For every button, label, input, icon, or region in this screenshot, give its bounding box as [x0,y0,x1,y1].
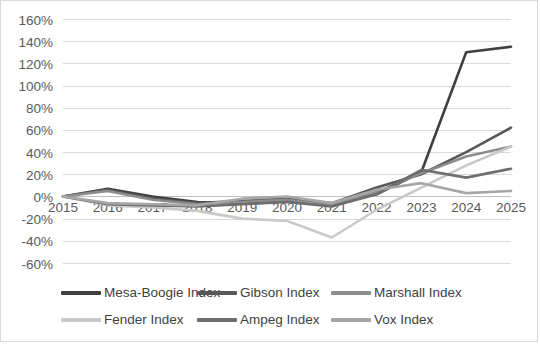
legend-label: Fender Index [104,312,184,327]
y-axis-tick-label: 160% [18,13,53,28]
legend-item[interactable]: Ampeg Index [197,306,320,333]
legend-swatch [197,318,237,322]
legend-swatch [197,291,237,295]
x-axis-tick-label: 2015 [48,200,78,215]
y-axis-tick-label: 60% [26,123,53,138]
y-axis-tick-label: 20% [26,168,53,183]
x-axis-tick-label: 2025 [496,200,526,215]
legend-swatch [331,291,371,295]
y-axis-tick-label: 40% [26,146,53,161]
y-axis-tick-label: 120% [18,57,53,72]
line-chart-svg: 160%140%120%100%80%60%40%20%0%-20%-40%-6… [1,1,539,273]
legend-item[interactable]: Marshall Index [331,279,462,306]
legend-label: Ampeg Index [240,312,320,327]
x-axis-tick-label: 2023 [406,200,436,215]
legend-item[interactable]: Fender Index [61,306,184,333]
x-axis-tick-label: 2024 [451,200,482,215]
legend-label: Marshall Index [374,285,462,300]
y-axis-tick-labels: 160%140%120%100%80%60%40%20%0%-20%-40%-6… [18,13,53,272]
y-axis-tick-label: -60% [21,257,53,272]
legend-label: Gibson Index [240,285,320,300]
legend-swatch [331,318,371,322]
y-axis-tick-label: 140% [18,35,53,50]
legend-label: Vox Index [374,312,433,327]
legend-row: Mesa-Boogie IndexGibson IndexMarshall In… [1,279,539,306]
chart-container: 160%140%120%100%80%60%40%20%0%-20%-40%-6… [0,0,538,342]
legend-item[interactable]: Gibson Index [197,279,320,306]
y-axis-tick-label: 80% [26,101,53,116]
gridlines [63,20,511,264]
legend-item[interactable]: Vox Index [331,306,433,333]
legend-swatch [61,318,101,322]
y-axis-tick-label: -40% [21,234,53,249]
legend-swatch [61,291,101,295]
x-axis-tick-label: 2022 [362,200,392,215]
plot-area: 160%140%120%100%80%60%40%20%0%-20%-40%-6… [1,1,539,273]
chart-legend: Mesa-Boogie IndexGibson IndexMarshall In… [1,279,539,337]
series-line [63,47,511,204]
y-axis-tick-label: 100% [18,79,53,94]
legend-row: Fender IndexAmpeg IndexVox Index [1,306,539,333]
